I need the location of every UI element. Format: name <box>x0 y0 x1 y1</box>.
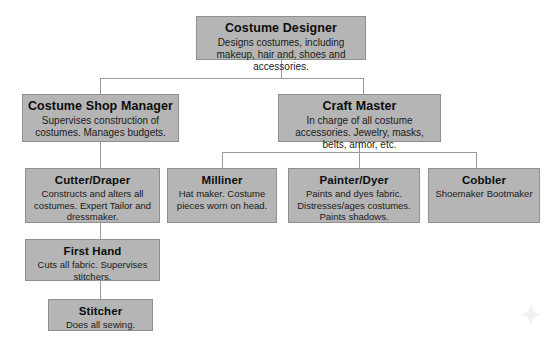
connector-designer-bus <box>100 78 364 79</box>
connector-to-shop-manager <box>100 78 101 95</box>
connector-cutter-to-firsthand <box>100 222 101 239</box>
node-title: Milliner <box>168 173 276 187</box>
node-title: Painter/Dyer <box>289 173 419 187</box>
watermark: ✦ <box>520 300 542 331</box>
connector-shopmanager-to-cutter <box>100 141 101 168</box>
node-costume-designer[interactable]: Costume Designer Designs costumes, inclu… <box>196 16 366 60</box>
node-title: Cutter/Draper <box>26 173 159 187</box>
connector-to-cobbler <box>476 152 477 168</box>
node-title: Craft Master <box>279 99 440 114</box>
node-milliner[interactable]: Milliner Hat maker. Costume pieces worn … <box>167 168 277 223</box>
node-cobbler[interactable]: Cobbler Shoemaker Bootmaker <box>428 168 540 223</box>
node-description: Cuts all fabric. Supervises stitchers. <box>26 258 159 282</box>
connector-craftmaster-bus <box>222 152 476 153</box>
node-title: Costume Designer <box>197 21 365 36</box>
connector-to-craft-master <box>363 78 364 95</box>
node-craft-master[interactable]: Craft Master In charge of all costume ac… <box>278 94 441 142</box>
node-description: Designs costumes, including makeup, hair… <box>197 36 365 73</box>
node-cutter-draper[interactable]: Cutter/Draper Constructs and alters all … <box>25 168 160 223</box>
node-title: Stitcher <box>49 304 152 318</box>
node-title: Costume Shop Manager <box>23 99 178 114</box>
node-description: Supervises construction of costumes. Man… <box>23 114 178 139</box>
node-description: Shoemaker Bootmaker <box>429 187 539 200</box>
connector-to-painter-dyer <box>359 152 360 168</box>
node-title: First Hand <box>26 244 159 258</box>
node-costume-shop-manager[interactable]: Costume Shop Manager Supervises construc… <box>22 94 179 142</box>
node-description: Paints and dyes fabric. Distresses/ages … <box>289 187 419 223</box>
node-title: Cobbler <box>429 173 539 187</box>
node-description: In charge of all costume accessories. Je… <box>279 114 440 151</box>
node-description: Constructs and alters all costumes. Expe… <box>26 187 159 223</box>
connector-to-milliner <box>222 152 223 168</box>
node-description: Hat maker. Costume pieces worn on head. <box>168 187 276 211</box>
node-stitcher[interactable]: Stitcher Does all sewing. <box>48 299 153 331</box>
node-painter-dyer[interactable]: Painter/Dyer Paints and dyes fabric. Dis… <box>288 168 420 223</box>
org-chart: Costume Designer Designs costumes, inclu… <box>0 0 558 338</box>
node-description: Does all sewing. <box>49 318 152 331</box>
node-first-hand[interactable]: First Hand Cuts all fabric. Supervises s… <box>25 239 160 281</box>
connector-firsthand-to-stitcher <box>100 281 101 299</box>
